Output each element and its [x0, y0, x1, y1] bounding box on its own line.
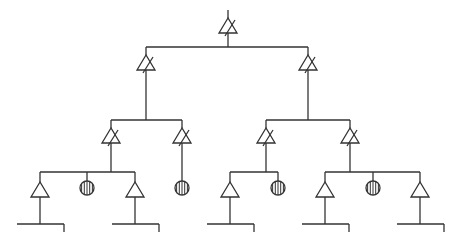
amplifier-icon [221, 182, 239, 197]
amplifier-icon [31, 182, 49, 197]
diagram-canvas [0, 0, 459, 242]
amplifier-icon [411, 182, 429, 197]
amplifier-icon [126, 182, 144, 197]
amplifier-tree-diagram [0, 0, 459, 242]
amplifier-icon [316, 182, 334, 197]
